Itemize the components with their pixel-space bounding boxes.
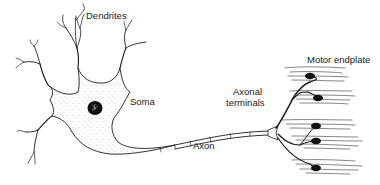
muscle-fibers [282,67,362,174]
motor-endplate-5 [311,165,321,171]
label-dendrites: Dendrites [86,10,127,21]
soma [48,68,175,154]
axonal-terminals [276,76,318,168]
label-axon: Axon [193,140,215,151]
motor-endplate-3 [311,123,321,129]
label-motor-endplate: Motor endplate [307,54,370,65]
neuron-diagram: Dendrites Soma Axon Axonal terminals Mot… [0,0,380,185]
motor-endplate-2 [313,95,323,101]
label-axonal-terminals-line2: terminals [226,97,265,108]
label-soma: Soma [130,96,156,107]
motor-endplate-4 [311,138,321,144]
motor-endplate-1 [305,73,315,79]
label-axonal-terminals-line1: Axonal [233,86,262,97]
nucleus [88,101,103,115]
axon [160,126,278,152]
